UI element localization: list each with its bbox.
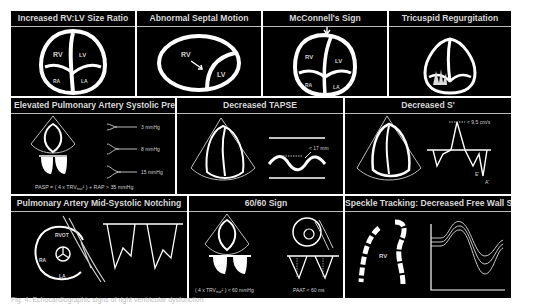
figure-grid: Increased RV:LV Size Ratio RV LV RA LA A… (11, 11, 511, 298)
panel-mcconnell: McConnell's Sign RV LV RA LA (263, 11, 387, 96)
septal-motion-diagram: RV LV (137, 27, 261, 96)
svg-text:15 mmHg: 15 mmHg (141, 169, 163, 175)
arrow-icon (324, 27, 330, 34)
svg-text:RVOT: RVOT (55, 232, 69, 238)
pasp-diagram: 3 mmHg 8 mmHg 15 mmHg PASP = ( 4 x TRVma… (11, 114, 175, 194)
panel-title: Decreased S' (345, 98, 511, 114)
panel-title: McConnell's Sign (263, 11, 387, 27)
svg-text:PASP = ( 4 x TRVmax² ) + RAP >: PASP = ( 4 x TRVmax² ) + RAP > 35 mmHg (35, 184, 133, 191)
panel-title: Speckle Tracking: Decreased Free Wall St… (345, 196, 511, 212)
panel-pasp: Elevated Pulmonary Artery Systolic Press… (11, 98, 175, 194)
svg-text:RV: RV (379, 253, 387, 259)
svg-text:< 9.5 cm/s: < 9.5 cm/s (467, 119, 491, 125)
svg-text:RV: RV (53, 51, 63, 58)
svg-text:LA: LA (333, 84, 340, 90)
panel-title: Pulmonary Artery Mid-Systolic Notching (11, 196, 187, 212)
panel-title: Tricuspid Regurgitation (389, 11, 511, 27)
svg-text:LV: LV (79, 52, 86, 58)
svg-text:8 mmHg: 8 mmHg (141, 146, 160, 152)
svg-text:RA: RA (305, 82, 313, 88)
mcconnell-diagram: RV LV RA LA (263, 27, 387, 96)
svg-text:A': A' (485, 179, 489, 185)
notching-diagram: RVOT RA LA (11, 212, 187, 298)
svg-text:RA: RA (39, 257, 47, 263)
panel-title: Abnormal Septal Motion (137, 11, 261, 27)
regurgitation-jet (433, 69, 447, 85)
svg-text:3 mmHg: 3 mmHg (141, 124, 160, 130)
panel-title: Elevated Pulmonary Artery Systolic Press… (11, 98, 175, 114)
panel-title: Decreased TAPSE (177, 98, 343, 114)
heart-4chamber-diagram: RV LV RA LA (11, 27, 135, 96)
tapse-diagram: < 17 mm (177, 114, 343, 194)
panel-rv-lv-ratio: Increased RV:LV Size Ratio RV LV RA LA (11, 11, 135, 96)
speckle-diagram: RV (345, 212, 511, 298)
svg-text:RV: RV (305, 54, 313, 60)
panel-title: Increased RV:LV Size Ratio (11, 11, 135, 27)
panel-title: 60/60 Sign (189, 196, 343, 212)
svg-text:LV: LV (335, 58, 342, 64)
svg-text:E': E' (475, 171, 479, 177)
panel-tapse: Decreased TAPSE < 17 mm (177, 98, 343, 194)
svg-text:RV: RV (181, 51, 191, 58)
panel-sixty-sixty: 60/60 Sign ( 4 x TRVmax² ) < 60 mmHg PAA… (189, 196, 343, 298)
svg-text:RA: RA (53, 78, 61, 84)
svg-text:LA: LA (81, 78, 88, 84)
svg-text:PAAT < 60 ms: PAAT < 60 ms (293, 287, 325, 293)
panel-speckle: Speckle Tracking: Decreased Free Wall St… (345, 196, 511, 298)
svg-text:< 17 mm: < 17 mm (309, 145, 329, 151)
figure-caption: Fig. 4. Echocardiographic signs of right… (11, 296, 204, 303)
panel-tricuspid: Tricuspid Regurgitation (389, 11, 511, 96)
svg-text:LA: LA (59, 273, 66, 279)
sixty-sixty-diagram: ( 4 x TRVmax² ) < 60 mmHg PAAT < 60 ms (189, 212, 343, 298)
panel-septal-motion: Abnormal Septal Motion RV LV (137, 11, 261, 96)
svg-text:( 4 x TRVmax² ) < 60 mmHg: ( 4 x TRVmax² ) < 60 mmHg (195, 287, 254, 294)
panel-notching: Pulmonary Artery Mid-Systolic Notching R… (11, 196, 187, 298)
svg-text:LV: LV (217, 71, 226, 78)
tricuspid-diagram (389, 27, 511, 96)
panel-s-prime: Decreased S' < 9.5 cm/s E' A' (345, 98, 511, 194)
s-prime-diagram: < 9.5 cm/s E' A' (345, 114, 511, 194)
